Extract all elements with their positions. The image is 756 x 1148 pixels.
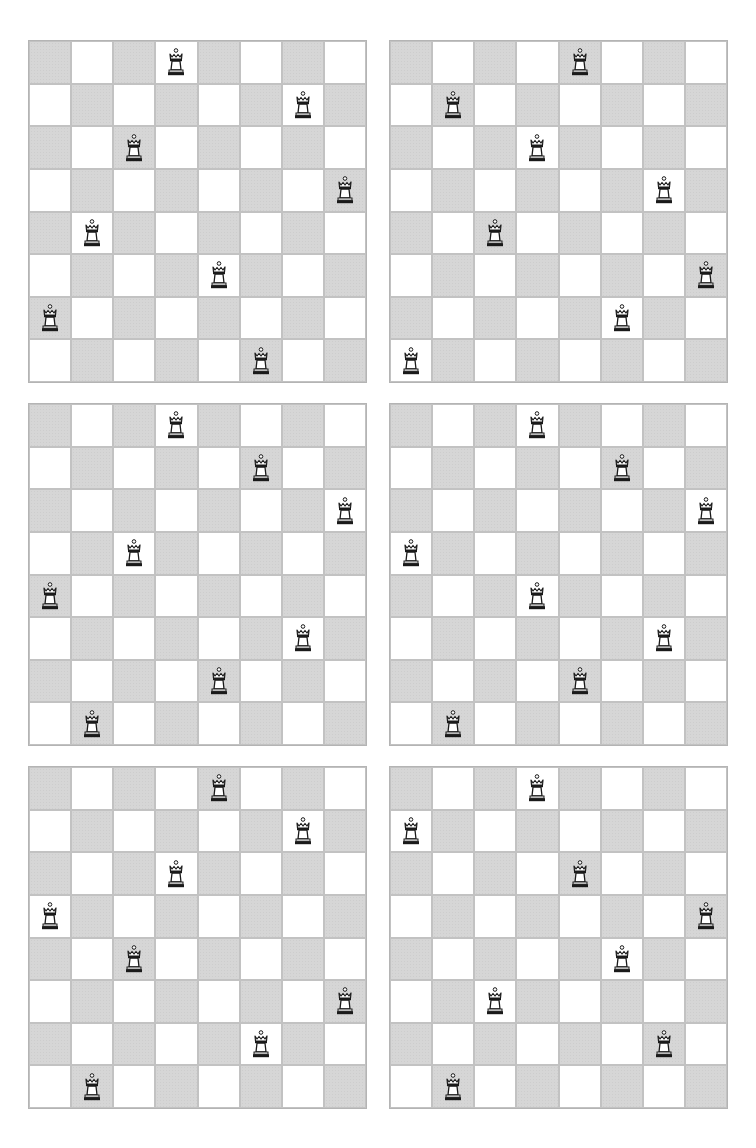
board-square — [516, 84, 558, 127]
board-square — [390, 1065, 432, 1108]
board-square — [390, 617, 432, 660]
board-square — [155, 489, 197, 532]
board-square — [240, 84, 282, 127]
queen-icon — [570, 667, 590, 695]
board-square — [432, 852, 474, 895]
board-square — [29, 489, 71, 532]
board-square — [282, 297, 324, 340]
board-square — [601, 169, 643, 212]
board-square — [113, 84, 155, 127]
board-square — [240, 532, 282, 575]
board-square — [282, 532, 324, 575]
board-square — [240, 980, 282, 1023]
queen-icon — [335, 987, 355, 1015]
board-square — [198, 169, 240, 212]
board-square — [240, 810, 282, 853]
board-square — [474, 339, 516, 382]
board-square — [113, 41, 155, 84]
board-square — [155, 297, 197, 340]
board-square — [432, 810, 474, 853]
board-square — [113, 1023, 155, 1066]
board-square — [474, 575, 516, 618]
queen-icon — [570, 48, 590, 76]
board-square — [198, 41, 240, 84]
board-square — [432, 169, 474, 212]
board-square — [155, 575, 197, 618]
board-square — [29, 980, 71, 1023]
board-square — [324, 852, 366, 895]
queen-icon — [82, 710, 102, 738]
board-square — [29, 575, 71, 618]
board-square — [29, 1065, 71, 1108]
board-2 — [389, 40, 728, 383]
queen-icon — [335, 176, 355, 204]
board-square — [29, 938, 71, 981]
board-square — [432, 617, 474, 660]
board-square — [29, 404, 71, 447]
board-square — [643, 1065, 685, 1108]
board-square — [516, 938, 558, 981]
board-square — [390, 297, 432, 340]
board-square — [685, 212, 727, 255]
board-square — [240, 660, 282, 703]
board-square — [643, 810, 685, 853]
board-square — [71, 575, 113, 618]
board-4 — [389, 403, 728, 746]
board-square — [240, 1023, 282, 1066]
queen-icon — [124, 539, 144, 567]
board-square — [601, 254, 643, 297]
board-square — [71, 254, 113, 297]
queen-icon — [527, 411, 547, 439]
board-square — [601, 938, 643, 981]
board-square — [474, 852, 516, 895]
board-square — [71, 660, 113, 703]
board-square — [29, 532, 71, 575]
board-square — [685, 339, 727, 382]
queen-icon — [40, 582, 60, 610]
board-square — [198, 254, 240, 297]
board-square — [282, 1065, 324, 1108]
board-square — [324, 895, 366, 938]
board-square — [601, 339, 643, 382]
board-square — [282, 447, 324, 490]
board-square — [155, 404, 197, 447]
board-square — [516, 212, 558, 255]
board-square — [643, 617, 685, 660]
board-square — [113, 532, 155, 575]
board-square — [516, 41, 558, 84]
board-square — [71, 938, 113, 981]
board-square — [198, 339, 240, 382]
board-square — [559, 84, 601, 127]
board-square — [601, 980, 643, 1023]
board-square — [516, 810, 558, 853]
board-square — [29, 41, 71, 84]
board-square — [282, 767, 324, 810]
board-square — [559, 339, 601, 382]
board-square — [29, 852, 71, 895]
board-square — [198, 617, 240, 660]
board-square — [198, 126, 240, 169]
board-square — [113, 169, 155, 212]
board-square — [113, 447, 155, 490]
board-square — [240, 254, 282, 297]
board-square — [240, 126, 282, 169]
board-square — [324, 660, 366, 703]
board-square — [324, 489, 366, 532]
queen-icon — [209, 261, 229, 289]
board-square — [432, 447, 474, 490]
board-square — [685, 895, 727, 938]
queen-icon — [443, 710, 463, 738]
board-square — [113, 852, 155, 895]
board-square — [198, 489, 240, 532]
board-square — [432, 404, 474, 447]
board-square — [71, 297, 113, 340]
board-square — [516, 447, 558, 490]
board-square — [113, 297, 155, 340]
queen-icon — [485, 987, 505, 1015]
board-square — [474, 1023, 516, 1066]
board-square — [432, 489, 474, 532]
board-square — [559, 810, 601, 853]
queen-icon — [40, 304, 60, 332]
queen-icon — [251, 454, 271, 482]
board-square — [432, 660, 474, 703]
